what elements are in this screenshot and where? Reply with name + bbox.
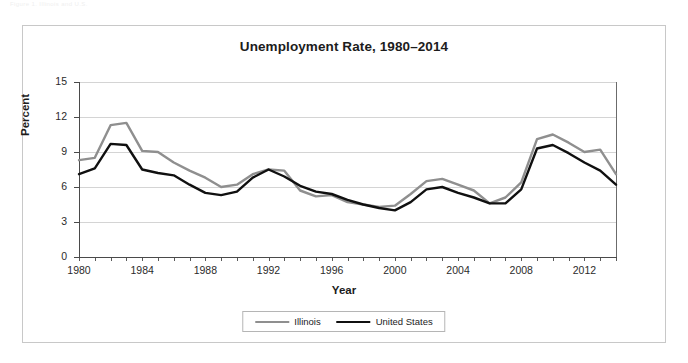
legend-label: Illinois — [294, 316, 320, 327]
series-layer — [79, 82, 616, 257]
y-tick-label: 15 — [33, 75, 67, 87]
x-axis-title: Year — [23, 284, 665, 296]
x-tick-label: 1980 — [57, 264, 101, 276]
x-tick-label: 2008 — [499, 264, 543, 276]
figure-frame: Unemployment Rate, 1980–2014 03691215 19… — [22, 25, 666, 343]
y-tick-label: 9 — [33, 145, 67, 157]
x-tick-label: 1988 — [183, 264, 227, 276]
series-line — [79, 123, 616, 207]
legend-label: United States — [376, 316, 433, 327]
y-tick-label: 0 — [33, 250, 67, 262]
x-tick-label: 2004 — [436, 264, 480, 276]
chart-legend: IllinoisUnited States — [242, 311, 445, 332]
y-tick-label: 6 — [33, 180, 67, 192]
x-tick-label: 1992 — [247, 264, 291, 276]
legend-entry: Illinois — [255, 316, 320, 327]
x-tick-label: 1984 — [120, 264, 164, 276]
chart-title: Unemployment Rate, 1980–2014 — [23, 39, 665, 54]
x-tick-label: 1996 — [310, 264, 354, 276]
figure-caption: Figure 1. Illinois and U.S. — [10, 1, 88, 7]
x-tick-label: 2000 — [373, 264, 417, 276]
x-tick-label: 2012 — [562, 264, 606, 276]
legend-entry: United States — [337, 316, 433, 327]
legend-swatch — [337, 321, 371, 323]
y-tick-label: 12 — [33, 110, 67, 122]
legend-swatch — [255, 321, 289, 323]
y-axis-title: Percent — [19, 94, 31, 136]
y-tick-label: 3 — [33, 215, 67, 227]
